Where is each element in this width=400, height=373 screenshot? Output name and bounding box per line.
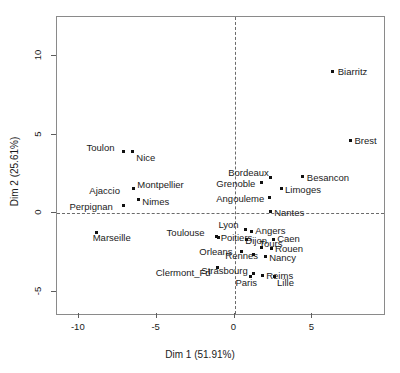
data-point <box>269 176 272 179</box>
y-axis-tick <box>51 291 56 292</box>
x-axis-tick-label: 5 <box>309 321 314 332</box>
data-point <box>260 181 263 184</box>
data-point <box>269 210 272 213</box>
data-point <box>244 228 247 231</box>
data-point-label: Marseille <box>93 233 131 243</box>
data-point-label: Biarritz <box>338 67 368 77</box>
y-axis-tick <box>51 55 56 56</box>
data-point <box>331 70 334 73</box>
data-point-label: Bordeaux <box>228 168 269 178</box>
y-axis-tick <box>51 212 56 213</box>
data-point-label: Rennes <box>225 251 258 261</box>
data-point-label: Lille <box>277 278 294 288</box>
data-point-label: Nantes <box>274 208 304 218</box>
data-point-label: Nancy <box>269 253 296 263</box>
data-point-label: Toulouse <box>167 228 205 238</box>
data-point-label: Lyon <box>218 220 238 230</box>
y-axis-tick-label: 10 <box>32 46 43 64</box>
data-point-label: Grenoble <box>216 179 255 189</box>
x-axis-tick <box>311 313 312 318</box>
plot-area: BiarritzBrestBesanconBordeauxLimogesGren… <box>56 16 385 315</box>
data-point-label: Brest <box>355 136 377 146</box>
x-axis-tick-label: -5 <box>151 321 159 332</box>
data-point <box>122 150 125 153</box>
data-point-label: Limoges <box>285 185 321 195</box>
data-point <box>137 198 140 201</box>
x-axis-tick-label: 0 <box>231 321 236 332</box>
data-point <box>131 150 134 153</box>
pca-scatter-plot: BiarritzBrestBesanconBordeauxLimogesGren… <box>0 0 400 373</box>
data-point <box>280 187 283 190</box>
data-point-label: Clermont_Fd <box>156 268 211 278</box>
data-point-label: Besancon <box>307 173 349 183</box>
x-axis-tick <box>234 313 235 318</box>
data-point <box>301 175 304 178</box>
y-axis-label: Dim 2 (25.61%) <box>9 112 20 232</box>
data-point <box>349 139 352 142</box>
data-point <box>268 196 271 199</box>
x-axis-tick <box>156 313 157 318</box>
data-point-label: Nimes <box>142 197 169 207</box>
data-point <box>252 272 255 275</box>
data-point <box>270 247 273 250</box>
data-point-label: Toulon <box>86 143 114 153</box>
data-point <box>264 255 267 258</box>
data-point <box>273 275 276 278</box>
x-axis-tick-label: -10 <box>71 321 85 332</box>
y-axis-tick-label: 5 <box>32 125 43 143</box>
x-axis-label: Dim 1 (51.91%) <box>0 349 400 360</box>
y-axis-tick-label: -5 <box>32 282 43 300</box>
data-point-label: Montpellier <box>137 180 183 190</box>
data-point <box>216 266 219 269</box>
x-axis-tick <box>78 313 79 318</box>
y-axis-tick-label: 0 <box>32 203 43 221</box>
data-point-label: Angouleme <box>216 194 264 204</box>
horizontal-zero-reference-line <box>57 213 384 214</box>
data-point-label: Paris <box>235 278 257 288</box>
data-point <box>122 204 125 207</box>
data-point-label: Nice <box>136 153 155 163</box>
data-point <box>132 187 135 190</box>
data-point <box>261 274 264 277</box>
y-axis-tick <box>51 134 56 135</box>
data-point-label: Perpignan <box>69 202 112 212</box>
data-point-label: Ajaccio <box>89 186 120 196</box>
